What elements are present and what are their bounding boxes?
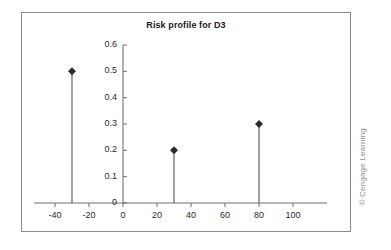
markers-group	[69, 68, 262, 153]
y-tick-label: 0.5	[81, 65, 117, 75]
y-tick-label: 0	[81, 197, 117, 207]
data-point-marker	[171, 147, 177, 153]
axes-group	[34, 45, 327, 207]
y-tick-label: 0.1	[81, 171, 117, 181]
copyright-credit: © Cengage Learning	[358, 128, 367, 206]
y-tick-label: 0.3	[81, 118, 117, 128]
y-tick-label: 0.4	[81, 92, 117, 102]
data-point-marker	[256, 121, 262, 127]
y-tick-label: 0.6	[81, 39, 117, 49]
data-point-marker	[69, 68, 75, 74]
y-tick-label: 0.2	[81, 144, 117, 154]
figure-canvas: Risk profile for D3 -40-2002040608010000…	[0, 0, 391, 250]
x-tick-label: 100	[273, 210, 313, 220]
